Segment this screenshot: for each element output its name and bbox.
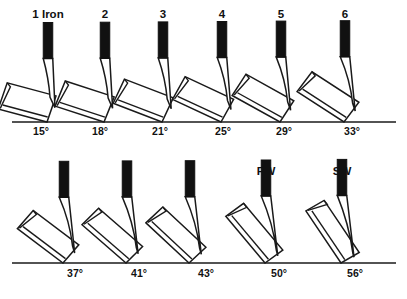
loft-angle-label: 21° (152, 125, 168, 137)
loft-angle-label: 29° (276, 125, 292, 137)
club-name-label: 8 (124, 165, 131, 177)
club-3-iron: 321° (113, 8, 173, 137)
club-shaft (217, 22, 227, 58)
club-blade (0, 83, 56, 122)
loft-angle-label: 25° (215, 125, 231, 137)
club-name-label: 5 (278, 8, 285, 20)
club-name-label: 6 (342, 8, 348, 20)
club-name-label: SW (333, 165, 352, 177)
club-pw: PW50° (226, 160, 287, 279)
club-name-label: PW (257, 165, 276, 177)
club-shaft (276, 21, 286, 57)
club-7-iron: 737° (17, 161, 83, 279)
club-5-iron: 529° (232, 8, 294, 137)
loft-angle-label: 33° (344, 125, 360, 137)
club-1-iron: 1 Iron15° (0, 8, 64, 137)
loft-angle-label: 50° (271, 267, 287, 279)
club-name-label: 4 (219, 8, 226, 20)
club-2-iron: 218° (55, 8, 114, 137)
club-6-iron: 633° (297, 8, 360, 137)
club-shaft (100, 22, 110, 58)
loft-angle-label: 56° (347, 267, 363, 279)
golf-loft-chart: 1 Iron15°218°321°425°529°633°737°841°943… (0, 0, 407, 299)
short-irons-row: 737°841°943°PW50°SW56° (12, 159, 396, 279)
club-sw: SW56° (306, 159, 363, 279)
loft-angle-label: 41° (131, 267, 147, 279)
club-name-label: 9 (187, 165, 193, 177)
rows-group: 1 Iron15°218°321°425°529°633°737°841°943… (0, 8, 396, 279)
loft-angle-label: 43° (198, 267, 214, 279)
loft-angle-label: 18° (92, 125, 108, 137)
loft-angle-label: 37° (67, 267, 83, 279)
loft-angle-label: 15° (33, 125, 49, 137)
club-shaft (43, 23, 53, 59)
club-diagram-svg: 1 Iron15°218°321°425°529°633°737°841°943… (0, 0, 407, 299)
club-8-iron: 841° (82, 161, 147, 279)
club-name-label: 7 (61, 165, 67, 177)
club-name-label: 3 (160, 8, 166, 20)
club-blade (113, 79, 173, 122)
club-shaft (340, 21, 350, 57)
club-blade (55, 81, 114, 122)
club-shaft (158, 22, 168, 58)
long-irons-row: 1 Iron15°218°321°425°529°633° (0, 8, 396, 137)
club-9-iron: 943° (146, 161, 214, 279)
club-name-label: 2 (102, 8, 108, 20)
club-name-label: 1 Iron (32, 8, 63, 20)
club-4-iron: 425° (173, 8, 234, 137)
